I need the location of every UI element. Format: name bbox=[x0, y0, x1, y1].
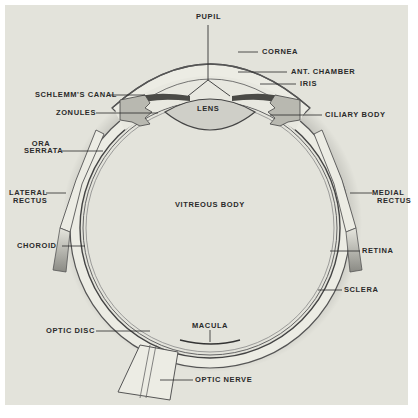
label-ora-serrata-2: SERRATA bbox=[24, 147, 63, 155]
label-lateral-rectus-2: RECTUS bbox=[13, 197, 47, 205]
label-macula: MACULA bbox=[192, 322, 228, 330]
label-cornea: CORNEA bbox=[262, 48, 298, 56]
label-lens: LENS bbox=[197, 105, 219, 113]
label-medial-rectus-2: RECTUS bbox=[377, 197, 411, 205]
label-pupil: PUPIL bbox=[196, 13, 221, 21]
label-sclera: SCLERA bbox=[344, 286, 378, 294]
label-zonules: ZONULES bbox=[56, 109, 96, 117]
eye-diagram bbox=[0, 0, 418, 418]
label-schlemms-canal: SCHLEMM'S CANAL bbox=[35, 91, 117, 99]
label-ciliary-body: CILIARY BODY bbox=[325, 111, 386, 119]
label-choroid: CHOROID bbox=[17, 242, 57, 250]
optic-nerve bbox=[118, 345, 178, 400]
label-vitreous-body: VITREOUS BODY bbox=[175, 201, 245, 209]
label-optic-nerve: OPTIC NERVE bbox=[195, 376, 252, 384]
label-ant-chamber: ANT. CHAMBER bbox=[291, 68, 355, 76]
label-iris: IRIS bbox=[300, 80, 317, 88]
label-retina: RETINA bbox=[362, 247, 394, 255]
label-optic-disc: OPTIC DISC bbox=[46, 327, 95, 335]
